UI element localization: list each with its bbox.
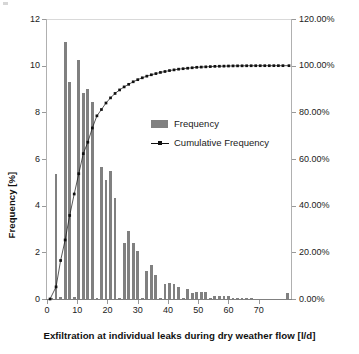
cumulative-marker (127, 83, 130, 86)
legend-label-cumulative-frequency: Cumulative Frequency (174, 137, 269, 148)
chart-figure: Frequency [%] 024681012 0.00%20.00%40.00… (0, 0, 359, 354)
cumulative-marker (204, 65, 207, 68)
x-tick (47, 300, 48, 304)
legend-marker-square-icon (158, 141, 162, 145)
left-tick-label: 4 (6, 201, 40, 210)
cumulative-marker (254, 64, 257, 67)
legend-item-frequency: Frequency (151, 116, 281, 135)
cumulative-marker (114, 92, 117, 95)
cumulative-marker (173, 69, 176, 72)
cumulative-marker (118, 89, 121, 92)
x-tick-label: 60 (214, 306, 242, 315)
cumulative-marker (100, 108, 103, 111)
cumulative-marker (77, 172, 80, 175)
right-tick (292, 252, 296, 253)
cumulative-marker (64, 239, 67, 242)
cumulative-marker (159, 71, 162, 74)
x-tick (138, 300, 139, 304)
cumulative-marker (268, 64, 271, 67)
right-tick-label: 20.00% (299, 248, 355, 257)
right-tick (292, 206, 296, 207)
cumulative-marker (123, 86, 126, 89)
x-tick-label: 70 (245, 306, 273, 315)
cumulative-marker (82, 152, 85, 155)
left-tick-label: 10 (6, 61, 40, 70)
cumulative-marker (105, 102, 108, 105)
cumulative-marker (214, 65, 217, 68)
cumulative-marker (168, 69, 171, 72)
x-tick-label: 20 (93, 306, 121, 315)
x-tick-label: 50 (184, 306, 212, 315)
cumulative-marker (186, 67, 189, 70)
x-tick (168, 300, 169, 304)
cumulative-marker (55, 286, 58, 289)
right-tick-label: 0.00% (299, 295, 355, 304)
cumulative-marker (132, 80, 135, 83)
cumulative-marker (191, 66, 194, 69)
cumulative-marker (141, 76, 144, 79)
x-tick (228, 300, 229, 304)
x-axis-title: Exfiltration at individual leaks during … (0, 330, 359, 341)
x-tick (107, 300, 108, 304)
right-tick (292, 299, 296, 300)
cumulative-marker (136, 78, 139, 81)
plot-area: 024681012 0.00%20.00%40.00%60.00%80.00%1… (46, 19, 292, 300)
cumulative-marker (259, 64, 262, 67)
legend: Frequency Cumulative Frequency (151, 116, 281, 154)
cumulative-marker (68, 214, 71, 217)
legend-item-cumulative-frequency: Cumulative Frequency (151, 135, 281, 154)
cumulative-marker (223, 65, 226, 68)
cumulative-marker (182, 67, 185, 70)
cumulative-marker (200, 66, 203, 69)
cumulative-marker (282, 64, 285, 67)
cumulative-marker (145, 75, 148, 78)
cumulative-marker (250, 64, 253, 67)
cumulative-marker (73, 193, 76, 196)
x-tick (77, 300, 78, 304)
cumulative-marker (164, 70, 167, 73)
right-tick (292, 66, 296, 67)
x-tick-label: 0 (33, 306, 61, 315)
cumulative-marker (96, 114, 99, 117)
cumulative-marker (232, 65, 235, 68)
left-tick-label: 2 (6, 248, 40, 257)
cumulative-marker (109, 97, 112, 100)
x-tick-label: 10 (63, 306, 91, 315)
right-tick-label: 100.00% (299, 61, 355, 70)
right-tick-label: 120.00% (299, 15, 355, 24)
line-series-cumulative-frequency (46, 19, 292, 300)
cumulative-marker (263, 64, 266, 67)
cumulative-marker (150, 73, 153, 76)
right-tick-label: 60.00% (299, 155, 355, 164)
cumulative-marker (195, 66, 198, 69)
left-tick-label: 12 (6, 15, 40, 24)
right-tick (292, 159, 296, 160)
legend-swatch-bar-icon (151, 120, 168, 128)
cumulative-markers (49, 64, 291, 300)
x-tick (259, 300, 260, 304)
cumulative-marker (241, 64, 244, 67)
legend-label-frequency: Frequency (174, 118, 219, 129)
cumulative-marker (91, 127, 94, 130)
cumulative-marker (86, 141, 89, 144)
x-tick-label: 40 (154, 306, 182, 315)
cumulative-marker (288, 64, 291, 67)
left-tick-label: 8 (6, 108, 40, 117)
cumulative-marker (273, 64, 276, 67)
cumulative-marker (59, 259, 62, 262)
cumulative-marker (227, 65, 230, 68)
right-tick-label: 40.00% (299, 201, 355, 210)
cumulative-marker (155, 72, 158, 75)
right-tick (292, 112, 296, 113)
x-tick (198, 300, 199, 304)
left-tick-label: 6 (6, 155, 40, 164)
cumulative-line-path (50, 66, 289, 299)
right-tick (292, 19, 296, 20)
cumulative-marker (49, 298, 52, 301)
cumulative-marker (218, 65, 221, 68)
scan-artifact (3, 2, 8, 5)
right-tick-label: 80.00% (299, 108, 355, 117)
cumulative-marker (177, 68, 180, 71)
cumulative-marker (209, 65, 212, 68)
left-tick-label: 0 (6, 295, 40, 304)
